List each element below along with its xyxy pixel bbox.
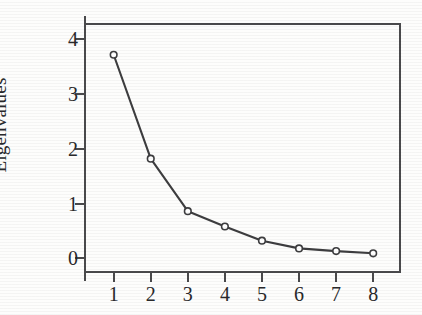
x-tick-mark bbox=[298, 273, 300, 282]
y-tick-label: 2 bbox=[52, 139, 78, 159]
x-tick-label: 5 bbox=[250, 284, 274, 304]
data-point-marker bbox=[370, 250, 377, 257]
x-tick-label: 1 bbox=[102, 284, 126, 304]
data-point-marker bbox=[296, 245, 303, 252]
y-tick-label: 0 bbox=[52, 248, 78, 268]
data-point-marker bbox=[110, 51, 117, 58]
x-tick-label: 2 bbox=[139, 284, 163, 304]
data-point-marker bbox=[259, 237, 266, 244]
x-tick-mark bbox=[261, 273, 263, 282]
y-axis-title: Eigenvalues bbox=[0, 0, 17, 250]
eigenvalue-line-series bbox=[84, 23, 401, 273]
x-tick-mark bbox=[224, 273, 226, 282]
x-tick-mark bbox=[150, 273, 152, 282]
data-point-marker bbox=[147, 155, 154, 162]
x-tick-label: 6 bbox=[287, 284, 311, 304]
y-tick-label: 4 bbox=[52, 29, 78, 49]
x-tick-mark bbox=[335, 273, 337, 282]
x-tick-label: 7 bbox=[324, 284, 348, 304]
x-tick-mark bbox=[372, 273, 374, 282]
x-tick-label: 8 bbox=[361, 284, 385, 304]
y-tick-label: 3 bbox=[52, 84, 78, 104]
data-point-marker bbox=[333, 248, 340, 255]
series-line bbox=[114, 55, 374, 254]
x-tick-label: 4 bbox=[213, 284, 237, 304]
scree-plot-figure: Eigenvalues 01234 12345678 bbox=[0, 0, 422, 315]
data-point-marker bbox=[185, 208, 192, 215]
series-markers bbox=[110, 51, 376, 256]
y-tick-label: 1 bbox=[52, 194, 78, 214]
x-tick-mark bbox=[113, 273, 115, 282]
x-tick-label: 3 bbox=[176, 284, 200, 304]
data-point-marker bbox=[222, 223, 229, 230]
x-tick-mark bbox=[187, 273, 189, 282]
